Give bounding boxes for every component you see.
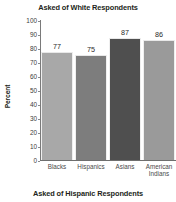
bar [109, 38, 141, 160]
y-tick-label: 80 [30, 46, 37, 52]
y-tick-mark [38, 133, 40, 134]
bar [41, 52, 73, 160]
x-category-label: Asians [107, 163, 143, 170]
bar [75, 55, 107, 160]
bar-value-label: 86 [143, 31, 175, 38]
y-tick-mark [38, 35, 40, 36]
chart-title-bottom: Asked of Hispanic Respondents [0, 189, 176, 198]
y-tick-mark [38, 49, 40, 50]
y-tick-label: 40 [30, 102, 37, 108]
y-tick-label: 90 [30, 32, 37, 38]
x-category-label: American Indians [141, 163, 176, 178]
y-tick-mark [38, 21, 40, 22]
y-tick-mark [38, 91, 40, 92]
x-category-label: Hispanics [73, 163, 109, 170]
y-tick-label: 70 [30, 60, 37, 66]
plot-area: 1009080706050403020100 77Blacks75Hispani… [40, 20, 176, 161]
y-tick-label: 0 [33, 158, 37, 164]
y-tick-mark [38, 63, 40, 64]
bar-value-label: 75 [75, 46, 107, 53]
y-tick-mark [38, 147, 40, 148]
y-tick-label: 60 [30, 74, 37, 80]
y-tick-mark [38, 105, 40, 106]
y-tick-mark [38, 161, 40, 162]
y-tick-mark [38, 119, 40, 120]
bar-value-label: 87 [109, 29, 141, 36]
y-tick-label: 50 [30, 88, 37, 94]
bar-chart-figure: Asked of White Respondents Percent 10090… [0, 0, 176, 202]
y-axis-label: Percent [4, 74, 11, 120]
x-axis-line [40, 160, 176, 161]
x-category-label: Blacks [39, 163, 75, 170]
bar [143, 40, 175, 160]
y-tick-label: 30 [30, 116, 37, 122]
y-tick-label: 100 [26, 18, 37, 24]
y-tick-label: 10 [30, 144, 37, 150]
chart-title-top: Asked of White Respondents [0, 3, 176, 12]
y-tick-label: 20 [30, 130, 37, 136]
y-tick-mark [38, 77, 40, 78]
bar-value-label: 77 [41, 43, 73, 50]
